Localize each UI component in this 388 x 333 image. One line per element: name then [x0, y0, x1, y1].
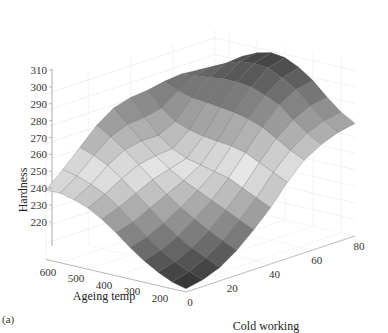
svg-text:200: 200: [152, 292, 169, 304]
surface-mesh: [46, 53, 355, 289]
svg-text:290: 290: [31, 98, 48, 110]
svg-text:250: 250: [31, 165, 48, 177]
svg-text:600: 600: [40, 266, 57, 278]
z-axis-label: Hardness: [16, 167, 30, 212]
svg-text:40: 40: [269, 268, 281, 280]
x-axis-label: Cold working: [233, 319, 299, 333]
surface-chart: 2202302402502602702802903003102003004005…: [0, 0, 388, 333]
svg-text:300: 300: [31, 81, 48, 93]
y-axis-label: Ageing temp: [73, 289, 135, 303]
svg-text:500: 500: [68, 272, 85, 284]
panel-label: (a): [2, 313, 14, 325]
svg-text:20: 20: [227, 282, 239, 294]
svg-text:0: 0: [187, 296, 193, 308]
svg-text:220: 220: [31, 216, 48, 228]
svg-text:230: 230: [31, 199, 48, 211]
svg-text:260: 260: [31, 148, 48, 160]
svg-text:60: 60: [311, 254, 323, 266]
svg-text:80: 80: [354, 240, 366, 252]
svg-text:280: 280: [31, 115, 48, 127]
svg-text:310: 310: [31, 64, 48, 76]
svg-text:240: 240: [31, 182, 48, 194]
svg-text:270: 270: [31, 132, 48, 144]
